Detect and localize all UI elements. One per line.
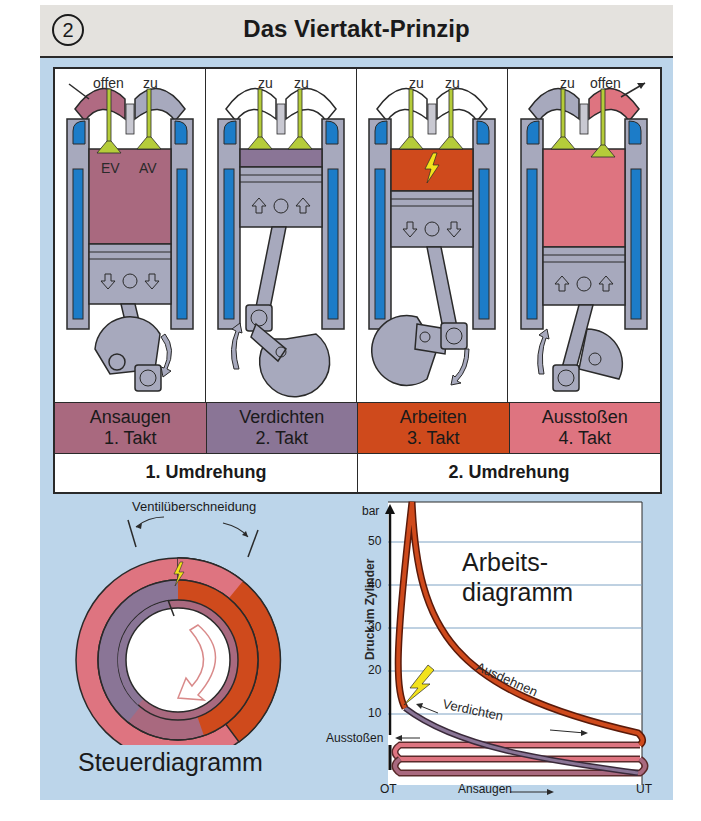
pv-diagram-title: Arbeits- diagramm: [462, 547, 573, 607]
stroke-label-verdichten: Verdichten 2. Takt: [207, 403, 359, 453]
page-title: Das Viertakt-Prinzip: [40, 15, 673, 43]
timing-diagram: Ventilüberschneidung: [40, 495, 340, 800]
exhaust-valve-state: zu: [143, 75, 158, 91]
y-axis-label: Druck im Zylinder: [363, 558, 377, 660]
y-unit-label: bar: [362, 504, 379, 518]
intake-valve-state: zu: [409, 75, 424, 91]
exhaust-valve-state: zu: [445, 75, 460, 91]
engine-power-icon: [357, 69, 507, 402]
ytick-30: 30: [368, 620, 381, 634]
stroke-3-illustration: zu zu: [357, 69, 508, 402]
svg-text:EV: EV: [101, 160, 120, 176]
engine-exhaust-icon: [508, 69, 660, 402]
stroke-labels-row: Ansaugen 1. Takt Verdichten 2. Takt Arbe…: [55, 402, 660, 453]
intake-valve-state: zu: [258, 75, 273, 91]
ausstossen-label: Ausstoßen: [326, 731, 383, 745]
intake-valve-state: zu: [560, 75, 575, 91]
ytick-40: 40: [368, 577, 381, 591]
revolution-2-label: 2. Umdrehung: [358, 454, 660, 493]
exhaust-valve-state: zu: [294, 75, 309, 91]
revolution-1-label: 1. Umdrehung: [55, 454, 358, 493]
ytick-10: 10: [368, 706, 381, 720]
stroke-2-illustration: zu zu: [206, 69, 357, 402]
ytick-20: 20: [368, 663, 381, 677]
exhaust-valve-state: offen: [590, 75, 621, 91]
stroke-label-ansaugen: Ansaugen 1. Takt: [55, 403, 207, 453]
svg-text:AV: AV: [139, 160, 157, 176]
revolutions-row: 1. Umdrehung 2. Umdrehung: [55, 453, 660, 493]
diagram-frame: 2 Das Viertakt-Prinzip: [40, 5, 673, 800]
stroke-label-arbeiten: Arbeiten 3. Takt: [358, 403, 510, 453]
stroke-label-ausstossen: Ausstoßen 4. Takt: [510, 403, 661, 453]
stroke-4-illustration: zu offen: [508, 69, 660, 402]
x-right-label-ut: UT: [636, 782, 652, 796]
pv-diagram: Ausdehnen Verdichten Druck im Zylinder b…: [310, 490, 673, 800]
engine-compression-icon: [206, 69, 356, 402]
header-bar: 2 Das Viertakt-Prinzip: [40, 5, 673, 58]
ytick-50: 50: [368, 534, 381, 548]
engine-intake-icon: EV AV: [55, 69, 205, 402]
pressure-volume-chart: Ausdehnen Verdichten Druck im Zylinder: [310, 490, 673, 800]
stroke-1-illustration: EV AV offen zu: [55, 69, 206, 402]
ansaugen-label: Ansaugen: [458, 782, 512, 796]
timing-ring-chart: [40, 495, 340, 745]
intake-valve-state: offen: [93, 75, 124, 91]
four-stroke-panel: EV AV offen zu: [53, 67, 662, 494]
timing-diagram-title: Steuerdiagramm: [78, 748, 263, 777]
x-left-label-ot: OT: [380, 782, 397, 796]
